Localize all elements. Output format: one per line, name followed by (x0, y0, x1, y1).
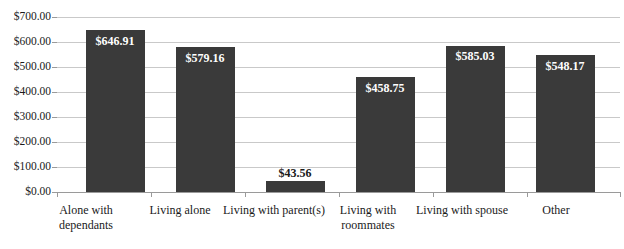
bar[interactable] (176, 47, 235, 192)
x-tick-mark (527, 192, 528, 197)
x-category-label: Living with parent(s) (222, 203, 326, 218)
gridline (57, 17, 620, 18)
bar-value-label: $548.17 (520, 60, 610, 72)
y-tick-label: $600.00 (0, 36, 51, 48)
bar-value-label: $43.56 (250, 167, 340, 179)
y-tick-label: $0.00 (0, 186, 51, 198)
plot-area: $646.91 $579.16 $43.56 $458.75 $585.03 $… (57, 17, 620, 192)
x-tick-mark (245, 192, 246, 197)
bar-chart: $700.00 $600.00 $500.00 $400.00 $300.00 … (0, 0, 624, 249)
bar[interactable] (86, 30, 145, 192)
x-tick-mark (151, 192, 152, 197)
x-category-label: Living alone (128, 203, 232, 218)
y-tick-label: $700.00 (0, 11, 51, 23)
y-tick-label: $500.00 (0, 61, 51, 73)
bar-value-label: $579.16 (160, 52, 250, 64)
bar-value-label: $458.75 (340, 82, 430, 94)
bar[interactable] (446, 46, 505, 192)
x-category-label: Other (504, 203, 608, 218)
x-category-label: Living with roommates (316, 203, 420, 232)
x-category-label: Alone with dependants (34, 203, 138, 232)
bar-value-label: $646.91 (70, 35, 160, 47)
y-tick-label: $100.00 (0, 161, 51, 173)
x-tick-mark (620, 192, 621, 197)
y-tick-label: $200.00 (0, 136, 51, 148)
bar-value-label: $585.03 (430, 50, 520, 62)
y-tick-label: $400.00 (0, 86, 51, 98)
x-tick-mark (339, 192, 340, 197)
bar[interactable] (536, 55, 595, 192)
bar[interactable] (266, 181, 325, 192)
y-tick-label: $300.00 (0, 111, 51, 123)
x-tick-mark (433, 192, 434, 197)
x-tick-mark (57, 192, 58, 197)
x-category-label: Living with spouse (410, 203, 514, 218)
